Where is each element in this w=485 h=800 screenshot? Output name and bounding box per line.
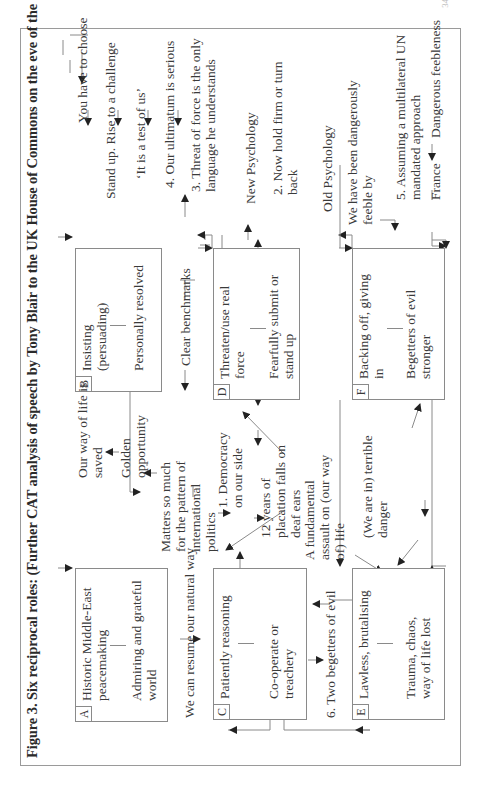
label-terrible-danger: (We are in) terrible danger	[360, 428, 390, 538]
label-two-begetters: 6. Two begetters of evil	[323, 591, 338, 718]
label-democracy: 1. Democracy on our side	[215, 418, 245, 508]
label-you-have-to-choose: You have to choose	[75, 18, 90, 124]
label-ultimatum: 4. Our ultimatum is serious	[162, 41, 177, 188]
rotated-figure: Figure 3. Six reciprocal roles: (Further…	[0, 0, 485, 800]
role-box-a: A Historic Middle-East peacemaking Admir…	[75, 568, 168, 722]
label-old-psychology: Old Psychology	[320, 125, 335, 212]
label-resume-natural-way: We can resume our natural way	[182, 548, 197, 718]
label-dangerously-feeble: We have been dangerously feeble by	[345, 65, 375, 225]
role-box-c: C Patiently reasoning Co-operate or trea…	[213, 568, 307, 720]
label-dangerous-feebleness: Dangerous feebleness	[428, 20, 443, 138]
label-way-of-life-saved: Our way of life is saved	[75, 378, 105, 478]
box-role-text: Backing off, giving in	[356, 269, 386, 379]
label-placation: 12 years of placation falls on deaf ears	[258, 428, 303, 538]
box-reciprocal-text: Co-operate or treachery	[266, 599, 296, 699]
role-box-e: E Lawless, brutalising Trauma, chaos, wa…	[352, 568, 445, 720]
box-reciprocal-text: Begetters of evil stronger	[403, 269, 433, 379]
role-box-b: B Insisting (persuading) Personally reso…	[75, 248, 162, 392]
box-reciprocal-text: Personally resolved	[131, 241, 146, 371]
box-tag: E	[352, 704, 369, 720]
label-threat-of-force: 3. Threat of force is the only language …	[188, 32, 218, 192]
role-box-d: D Threaten/use real force Fearfully subm…	[213, 248, 300, 400]
box-reciprocal-text: Admiring and grateful world	[129, 571, 159, 701]
label-golden-opportunity: Golden opportunity	[118, 398, 148, 478]
label-test-of-us: ‘It is a test of us’	[133, 88, 148, 179]
box-role-text: Lawless, brutalising	[356, 569, 371, 699]
box-tag: A	[75, 706, 92, 722]
box-role-text: Historic Middle-East peacemaking	[79, 571, 109, 701]
label-matters-so-much: Matters so much for the pattern of inter…	[158, 452, 218, 552]
box-role-text: Patiently reasoning	[217, 569, 232, 699]
box-tag: F	[352, 384, 369, 400]
box-role-text: Insisting (persuading)	[79, 271, 109, 371]
label-clear-benchmarks: Clear benchmarks	[178, 268, 193, 366]
box-tag: C	[213, 704, 230, 720]
role-box-f: F Backing off, giving in Begetters of ev…	[352, 248, 445, 400]
box-tag: D	[213, 384, 230, 400]
label-fundamental-assault: A fundamental assault on (our way of) li…	[302, 445, 347, 560]
box-reciprocal-text: Trauma, chaos, way of life lost	[403, 594, 433, 699]
box-reciprocal-text: Fearfully submit or stand up	[266, 249, 296, 379]
label-stand-up: Stand up. Rise to a challenge	[103, 42, 118, 199]
label-hold-firm: 2. Now hold firm or turn back	[270, 45, 300, 195]
label-france: France	[428, 163, 443, 200]
label-new-psychology: New Psychology	[243, 112, 258, 204]
label-multilateral: 5. Assuming a multilateral UN mandated a…	[393, 30, 423, 200]
box-role-text: Threaten/use real force	[217, 269, 247, 379]
